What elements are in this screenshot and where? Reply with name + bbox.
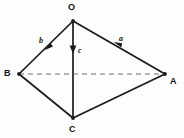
diagram-canvas [0,0,184,138]
vertex-label-C: C [69,125,76,134]
vertex-label-B: B [4,69,11,78]
vertex-dot-C [71,116,75,120]
edge-O-B [19,21,73,74]
vector-arrowhead-c [70,46,77,54]
vertex-dot-A [163,72,167,76]
vector-diagram: O B A C b a c [0,0,184,138]
vertex-dot-B [17,72,21,76]
edge-B-C [19,74,73,118]
vertex-label-O: O [68,3,75,12]
vertex-dot-O [71,19,75,23]
vector-label-c: c [78,47,82,55]
vector-label-a: a [119,35,123,43]
vector-label-b: b [39,37,43,45]
edge-O-A [73,21,165,74]
edge-C-A [73,74,165,118]
vertex-label-A: A [170,77,177,86]
